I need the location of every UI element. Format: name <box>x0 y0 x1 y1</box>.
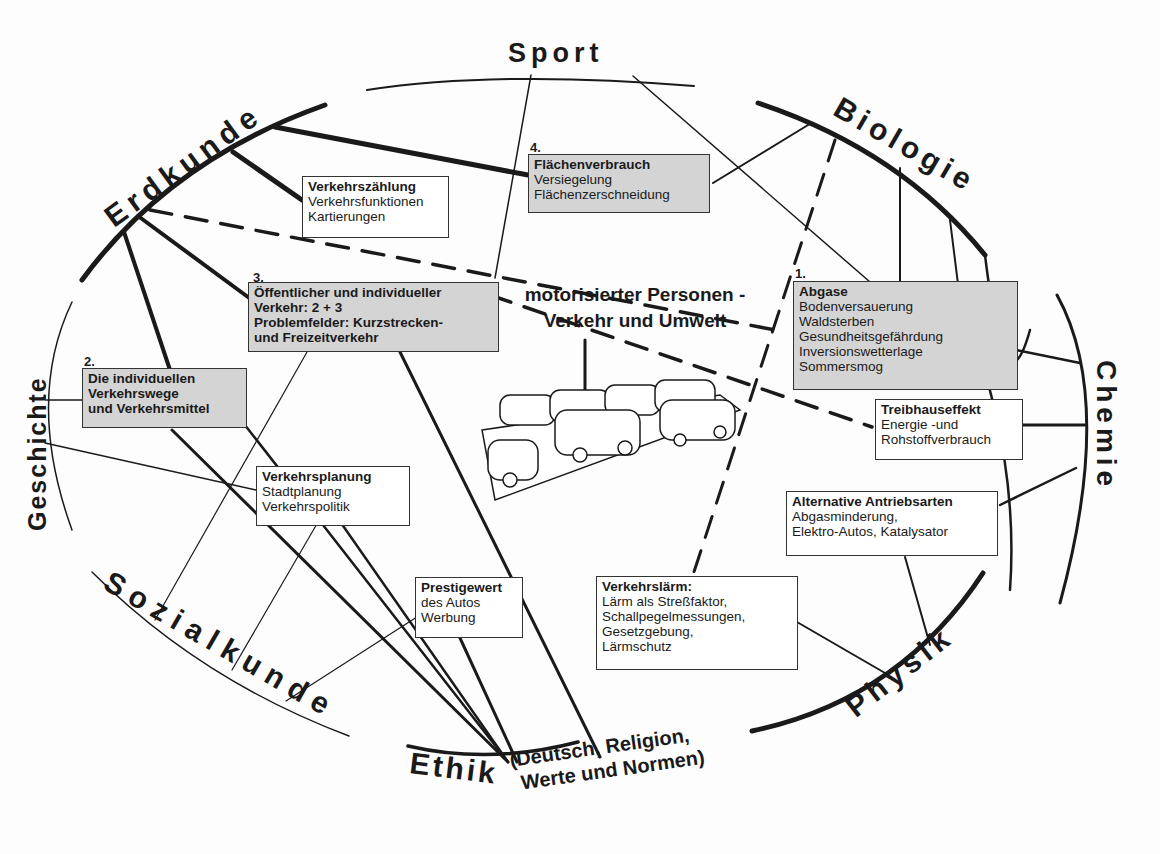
topic-line: Versiegelung <box>534 172 704 187</box>
topic-title: Verkehrslärm: <box>602 579 792 594</box>
topic-number-2: 2. <box>84 354 95 369</box>
topic-line: Problemfelder: Kurzstrecken- <box>254 315 493 330</box>
topic-line: Verkehrspolitik <box>262 499 404 514</box>
subject-geschichte: Geschichte <box>23 376 52 531</box>
topic-line: Sommersmog <box>799 359 1012 374</box>
topic-line: Lärm als Streßfaktor, <box>602 594 792 609</box>
topic-line: Stadtplanung <box>262 484 404 499</box>
topic-title: Verkehrsplanung <box>262 469 404 484</box>
topic-title: Prestigewert <box>421 580 517 595</box>
topic-line: Abgasminderung, <box>792 509 992 524</box>
traffic-jam-illustration <box>482 340 740 500</box>
topic-line: Energie -und <box>881 417 1017 432</box>
center-title-line-2: Verkehr und Umwelt <box>490 308 780 334</box>
topic-title: Abgase <box>799 284 1012 299</box>
topic-abgase: Abgase Bodenversauerung Waldsterben Gesu… <box>793 281 1018 390</box>
topic-oeffentlicher-verkehr: Öffentlicher und individueller Verkehr: … <box>248 282 499 352</box>
topic-line: des Autos <box>421 595 517 610</box>
topic-number-4: 4. <box>530 140 541 155</box>
topic-treibhauseffekt: Treibhauseffekt Energie -und Rohstoffver… <box>875 399 1023 460</box>
topic-line: Werbung <box>421 610 517 625</box>
arc-geschichte <box>49 302 73 530</box>
topic-line: Rohstoffverbrauch <box>881 432 1017 447</box>
subject-chemie: Chemie <box>1090 360 1122 491</box>
topic-verkehrszaehlung: Verkehrszählung Verkehrsfunktionen Karti… <box>302 176 449 238</box>
topic-line: Elektro-Autos, Katalysator <box>792 524 992 539</box>
topic-line: und Verkehrsmittel <box>88 401 241 416</box>
subject-sport: Sport <box>508 38 604 69</box>
topic-verkehrsplanung: Verkehrsplanung Stadtplanung Verkehrspol… <box>256 466 410 526</box>
topic-line: Waldsterben <box>799 314 1012 329</box>
topic-line: Öffentlicher und individueller <box>254 285 493 300</box>
topic-alternative-antriebsarten: Alternative Antriebsarten Abgasminderung… <box>786 491 998 556</box>
center-title: motorisierter Personen - Verkehr und Umw… <box>490 282 780 334</box>
topic-prestigewert: Prestigewert des Autos Werbung <box>415 577 523 638</box>
topic-line: Verkehr: 2 + 3 <box>254 300 493 315</box>
topic-line: und Freizeitverkehr <box>254 330 493 345</box>
arc-chemie <box>1057 295 1087 603</box>
topic-line: Lärmschutz <box>602 639 792 654</box>
topic-line: Verkehrsfunktionen <box>308 194 443 209</box>
topic-flaechenverbrauch: Flächenverbrauch Versiegelung Flächenzer… <box>528 154 710 213</box>
topic-line: Gesundheitsgefährdung <box>799 329 1012 344</box>
topic-individuelle-verkehrswege: Die individuellen Verkehrswege und Verke… <box>82 368 247 428</box>
topic-title: Treibhauseffekt <box>881 402 1017 417</box>
topic-line: Inversionswetterlage <box>799 344 1012 359</box>
concept-map: Sport Biologie Chemie Physik Ethik (Deut… <box>0 0 1160 854</box>
topic-line: Flächenzerschneidung <box>534 187 704 202</box>
topic-line: Schallpegelmessungen, <box>602 609 792 624</box>
topic-number-1: 1. <box>795 266 806 281</box>
topic-title: Verkehrszählung <box>308 179 443 194</box>
topic-line: Bodenversauerung <box>799 299 1012 314</box>
topic-line: Die individuellen <box>88 371 241 386</box>
topic-line: Gesetzgebung, <box>602 624 792 639</box>
center-title-line-1: motorisierter Personen - <box>490 282 780 308</box>
topic-title: Flächenverbrauch <box>534 157 704 172</box>
topic-title: Alternative Antriebsarten <box>792 494 992 509</box>
topic-verkehrslaerm: Verkehrslärm: Lärm als Streßfaktor, Scha… <box>596 576 798 670</box>
topic-line: Verkehrswege <box>88 386 241 401</box>
topic-line: Kartierungen <box>308 209 443 224</box>
